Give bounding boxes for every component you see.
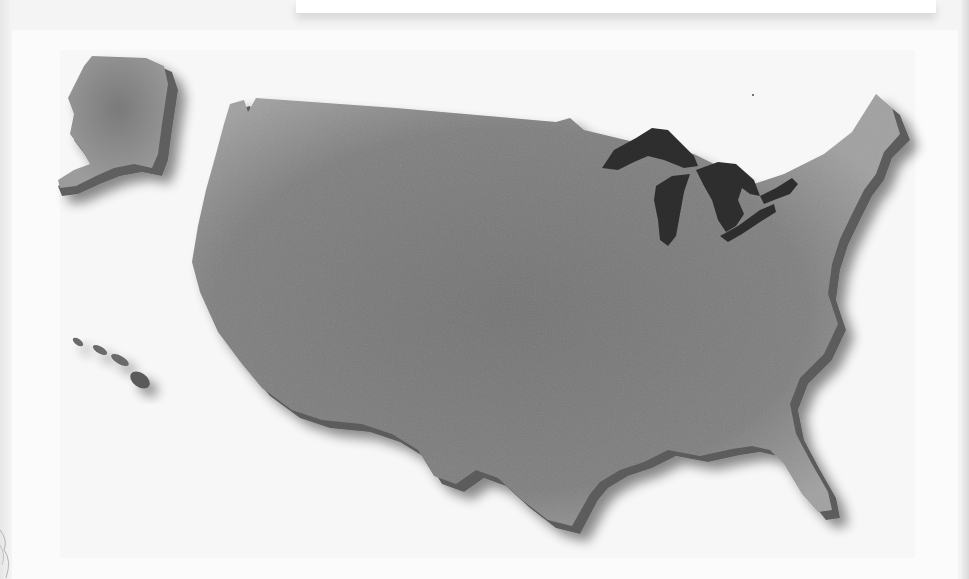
- hawaii: [71, 336, 153, 392]
- speck: [752, 94, 754, 96]
- alaska: [58, 56, 178, 196]
- us-map: [0, 0, 969, 579]
- hawaii-island-oahu: [91, 343, 108, 357]
- hawaii-island-maui: [109, 352, 130, 369]
- hawaii-island-kauai: [71, 336, 84, 348]
- contiguous-us: [192, 94, 910, 534]
- contiguous-us-texture: [192, 94, 900, 526]
- hawaii-island-big: [127, 368, 153, 392]
